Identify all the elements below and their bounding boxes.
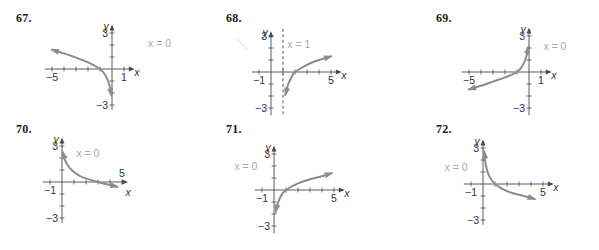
curve-arrow-end-icon <box>323 56 332 62</box>
y-axis-label: y <box>52 133 59 145</box>
x-tick-label-min: −1 <box>44 184 56 196</box>
asymptote-label: x = 1 <box>287 38 310 50</box>
asymptote-label: x = 0 <box>148 37 171 49</box>
x-axis-label: x <box>340 69 347 81</box>
y-tick-label-min: −3 <box>96 99 108 111</box>
x-tick-label-min: −1 <box>256 192 268 204</box>
function-curve <box>484 152 534 199</box>
x-tick-label-max: 1 <box>121 71 127 83</box>
graph-72: −153−3xyx = 0 <box>445 135 560 226</box>
x-tick-label-min: −5 <box>463 74 475 86</box>
y-tick-label-min: −3 <box>513 102 525 114</box>
curve-arrow-start-icon <box>274 204 280 213</box>
graph-67: −513−3xyx = 0 <box>45 20 171 111</box>
y-axis-arrow-icon <box>481 140 486 146</box>
y-axis-label: y <box>102 20 109 32</box>
curve-arrow-end-icon <box>110 182 119 188</box>
curve-arrow-start-icon <box>62 150 68 159</box>
curve-arrow-end-icon <box>527 194 536 200</box>
x-tick-label-min: −5 <box>46 71 58 83</box>
asymptote-label: x = 0 <box>234 160 257 172</box>
x-axis-label: x <box>124 186 131 198</box>
y-tick-label-min: −3 <box>258 220 270 232</box>
x-axis-label: x <box>133 66 140 78</box>
y-axis-arrow-icon <box>60 138 65 144</box>
graph-68: −153−3xyx = 1 <box>252 26 347 115</box>
y-axis-label: y <box>473 135 480 147</box>
y-axis-label: y <box>261 26 268 38</box>
x-axis-label: x <box>343 187 350 199</box>
graph-69: −513−3xyx = 0 <box>462 23 567 116</box>
function-curve <box>276 173 332 211</box>
x-axis-label: x <box>552 181 559 193</box>
asymptote-label: x = 0 <box>543 40 566 52</box>
function-curve <box>52 50 111 96</box>
graph-71: −153−3xyx = 0 <box>234 141 350 234</box>
y-axis-arrow-icon <box>272 146 277 152</box>
curve-arrow-end-icon <box>324 172 333 178</box>
curve-arrow-start-icon <box>284 87 290 96</box>
y-tick-label-min: −3 <box>255 102 267 114</box>
y-axis-label: y <box>264 141 271 153</box>
x-tick-label-min: −1 <box>465 186 477 198</box>
asymptote-label: x = 0 <box>445 161 468 173</box>
x-tick-label-max: 5 <box>119 167 125 179</box>
function-curve <box>469 47 528 90</box>
x-tick-label-min: −1 <box>253 74 265 86</box>
y-tick-label-min: −3 <box>467 214 479 226</box>
y-tick-label-min: −3 <box>46 212 58 224</box>
y-axis-arrow-icon <box>527 28 532 34</box>
asymptote-label: x = 0 <box>76 147 99 159</box>
x-tick-label-max: 5 <box>331 192 337 204</box>
y-axis-label: y <box>519 23 526 35</box>
function-curve <box>285 56 331 94</box>
x-axis-arrow-icon <box>122 180 128 185</box>
x-tick-label-max: 1 <box>538 74 544 86</box>
x-axis-label: x <box>550 69 557 81</box>
x-tick-label-max: 5 <box>540 186 546 198</box>
graph-70: −153−3xyx = 0 <box>43 133 132 224</box>
x-tick-label-max: 5 <box>328 74 334 86</box>
curve-arrow-start-icon <box>50 49 59 55</box>
graphs-canvas: −513−3xyx = 0−153−3xyx = 1−513−3xyx = 0−… <box>0 0 599 250</box>
y-axis-arrow-icon <box>110 25 115 31</box>
